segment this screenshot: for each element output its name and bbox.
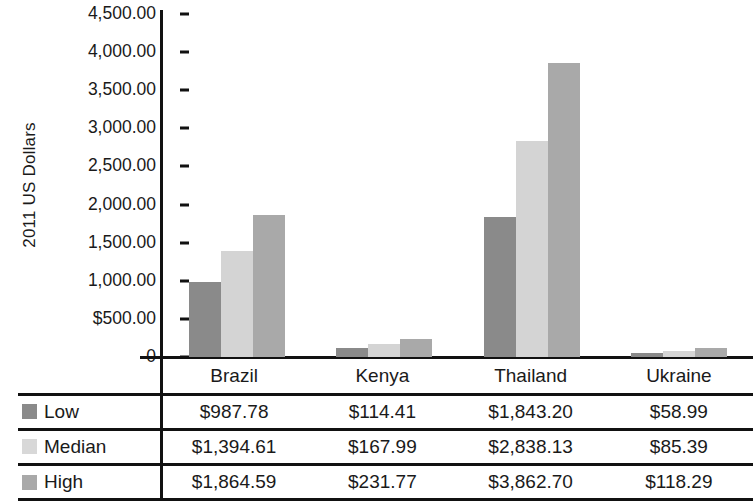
table-header-thailand: Thailand [457, 365, 605, 387]
bar-ukraine-low [631, 353, 663, 357]
y-axis-tick-label: 3,000.00 [32, 120, 156, 138]
bar-kenya-high [400, 339, 432, 357]
low-color-swatch [22, 404, 37, 419]
bar-thailand-low [484, 217, 516, 357]
bar-groups [163, 0, 753, 357]
table-header-row: BrazilKenyaThailandUkraine [0, 358, 753, 394]
bar-brazil-median [221, 251, 253, 357]
table-cell-high-ukraine: $118.29 [605, 471, 753, 493]
y-axis-tick-label: 4,000.00 [32, 43, 156, 61]
median-color-swatch [22, 439, 37, 454]
table-cell-low-thailand: $1,843.20 [457, 401, 605, 423]
legend-item-low: Low [0, 401, 160, 423]
data-table: BrazilKenyaThailandUkraine Low$987.78$11… [0, 358, 753, 500]
bar-brazil-low [189, 282, 221, 357]
bar-group-thailand [458, 0, 606, 357]
y-axis-tick-label: 1,500.00 [32, 234, 156, 252]
table-cell-high-thailand: $3,862.70 [457, 471, 605, 493]
y-axis-tick-label: 2,000.00 [32, 196, 156, 214]
table-header-ukraine: Ukraine [605, 365, 753, 387]
legend-item-median: Median [0, 436, 160, 458]
bar-thailand-high [548, 63, 580, 357]
table-cell-median-brazil: $1,394.61 [160, 436, 308, 458]
bar-group-kenya [311, 0, 459, 357]
table-row: Median$1,394.61$167.99$2,838.13$85.39 [0, 429, 753, 464]
table-cell-median-kenya: $167.99 [308, 436, 456, 458]
table-cell-high-brazil: $1,864.59 [160, 471, 308, 493]
table-cell-high-kenya: $231.77 [308, 471, 456, 493]
y-axis-tick-label: 2,500.00 [32, 158, 156, 176]
bar-brazil-high [253, 215, 285, 357]
y-axis-tick-label: $500.00 [32, 310, 156, 328]
high-color-swatch [22, 475, 37, 490]
bar-ukraine-median [663, 351, 695, 358]
y-axis-tick-label: 1,000.00 [32, 272, 156, 290]
y-axis-tick-labels: 4,500.004,000.003,500.003,000.002,500.00… [28, 0, 156, 362]
table-cell-median-ukraine: $85.39 [605, 436, 753, 458]
bar-group-brazil [163, 0, 311, 357]
table-cell-median-thailand: $2,838.13 [457, 436, 605, 458]
bar-kenya-low [336, 348, 368, 357]
y-axis-tick-label: 4,500.00 [32, 5, 156, 23]
plot-area: 4,500.004,000.003,500.003,000.002,500.00… [0, 0, 753, 362]
legend-label: Low [44, 401, 79, 423]
table-row: High$1,864.59$231.77$3,862.70$118.29 [0, 464, 753, 500]
y-axis-tick-label: 3,500.00 [32, 81, 156, 99]
table-cell-low-brazil: $987.78 [160, 401, 308, 423]
bar-thailand-median [516, 141, 548, 357]
table-cell-low-kenya: $114.41 [308, 401, 456, 423]
table-header-brazil: Brazil [160, 365, 308, 387]
legend-item-high: High [0, 471, 160, 493]
table-row: Low$987.78$114.41$1,843.20$58.99 [0, 394, 753, 429]
bar-ukraine-high [695, 348, 727, 357]
legend-label: High [44, 471, 83, 493]
table-cell-low-ukraine: $58.99 [605, 401, 753, 423]
bar-kenya-median [368, 344, 400, 357]
table-header-kenya: Kenya [308, 365, 456, 387]
bar-group-ukraine [606, 0, 753, 357]
legend-label: Median [44, 436, 106, 458]
